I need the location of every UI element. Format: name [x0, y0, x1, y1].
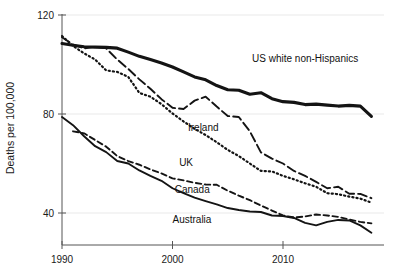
chart-canvas: 4080120199020002010 US white non-Hispani…	[0, 0, 394, 275]
axis-ticks	[58, 15, 283, 249]
series-label-us-white-non-hispanics: US white non-Hispanics	[252, 53, 358, 64]
series-lines	[62, 36, 371, 233]
x-tick-label-2010: 2010	[272, 254, 295, 265]
x-tick-label-2000: 2000	[161, 254, 184, 265]
series-label-canada: Canada	[175, 184, 210, 195]
y-axis-title: Deaths per 100,000	[4, 82, 16, 174]
y-tick-label-80: 80	[43, 109, 55, 120]
y-tick-label-40: 40	[43, 208, 55, 219]
line-chart: 4080120199020002010 US white non-Hispani…	[0, 0, 394, 275]
series-label-australia: Australia	[173, 214, 212, 225]
series-label-ireland: Ireland	[188, 122, 219, 133]
gridlines	[62, 15, 384, 213]
series-label-uk: UK	[179, 157, 193, 168]
axis-titles: Deaths per 100,000	[4, 82, 16, 174]
y-tick-label-120: 120	[37, 10, 54, 21]
x-tick-label-1990: 1990	[51, 254, 74, 265]
